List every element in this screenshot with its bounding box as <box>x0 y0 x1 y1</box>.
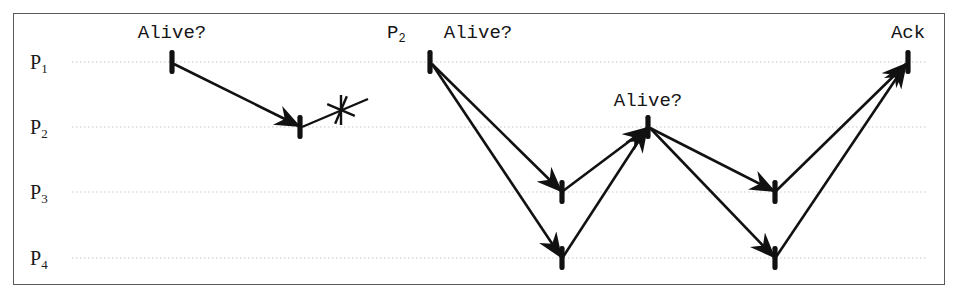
message-arrow-msg-1 <box>174 64 299 126</box>
process-label-p2: P2 <box>30 117 48 137</box>
event-marker-m-p2-recv-1 <box>297 115 302 139</box>
message-arrow-msg-4 <box>563 128 647 191</box>
process-label-p1: P1 <box>30 52 48 72</box>
event-marker-m-p1-send-1 <box>169 50 174 74</box>
failure-mark-group <box>302 95 368 127</box>
messages-group <box>174 64 906 257</box>
message-arrow-msg-9 <box>776 64 906 257</box>
message-label-alive-3: Alive? <box>614 92 682 111</box>
diagram-graphics <box>0 0 959 300</box>
event-marker-m-p1-send-2 <box>427 50 432 74</box>
message-label-ack: Ack <box>891 24 925 43</box>
event-marker-m-p4-recv-2 <box>772 246 777 270</box>
event-markers-group <box>169 50 910 270</box>
message-arrow-msg-5 <box>563 128 647 257</box>
event-marker-m-p3-recv-2 <box>772 180 777 204</box>
diagram-canvas: P1P2P3P4 Alive?P2Alive?Alive?Ack <box>0 0 959 300</box>
message-arrow-msg-6 <box>650 128 774 191</box>
event-marker-m-p4-recv-1 <box>559 246 564 270</box>
message-label-p2-tag: P2 <box>387 24 406 43</box>
process-label-p4: P4 <box>30 248 48 268</box>
message-arrow-msg-2 <box>432 64 561 191</box>
message-label-alive-1: Alive? <box>138 24 206 43</box>
message-arrow-msg-8 <box>776 64 906 191</box>
lifelines-group <box>72 62 928 258</box>
event-marker-m-p1-ack <box>905 50 910 74</box>
message-arrow-msg-3 <box>432 64 561 257</box>
event-marker-m-p2-relay <box>645 115 650 139</box>
process-label-p3: P3 <box>30 182 48 202</box>
event-marker-m-p3-recv-1 <box>559 180 564 204</box>
message-label-alive-2: Alive? <box>444 24 512 43</box>
